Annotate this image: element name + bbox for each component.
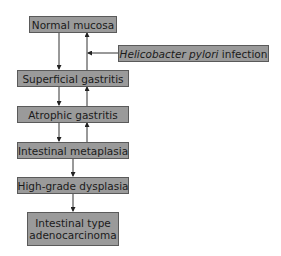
node-normal-mucosa: Normal mucosa — [29, 16, 117, 33]
node-superficial-gastritis: Superficial gastritis — [17, 70, 129, 87]
node-atrophic-gastritis: Atrophic gastritis — [17, 106, 129, 123]
node-label-rest: infection — [219, 48, 268, 60]
node-label-line2: adenocarcinoma — [29, 229, 116, 241]
node-helicobacter-pylori-infection: Helicobacter pylori infection — [118, 45, 269, 62]
node-label-italic: Helicobacter pylori — [120, 48, 219, 60]
node-label: High-grade dysplasia — [18, 180, 129, 192]
node-label-line1: Intestinal type — [35, 217, 111, 229]
node-label: Intestinal metaplasia — [18, 145, 128, 157]
node-label: Atrophic gastritis — [28, 109, 117, 121]
node-high-grade-dysplasia: High-grade dysplasia — [17, 177, 129, 194]
node-label: Normal mucosa — [32, 19, 114, 31]
node-intestinal-type-adenocarcinoma: Intestinal type adenocarcinoma — [27, 212, 119, 246]
node-intestinal-metaplasia: Intestinal metaplasia — [17, 142, 129, 159]
node-label: Superficial gastritis — [22, 73, 123, 85]
